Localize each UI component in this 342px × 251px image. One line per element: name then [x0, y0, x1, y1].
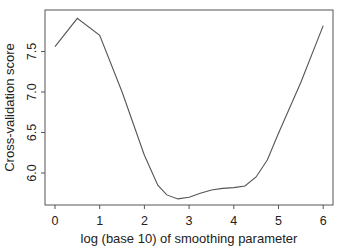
- x-tick-label: 5: [275, 214, 282, 228]
- x-axis: 0123456: [52, 205, 327, 228]
- x-tick-label: 1: [96, 214, 103, 228]
- y-axis-title: Cross-validation score: [2, 43, 17, 172]
- x-axis-title: log (base 10) of smoothing parameter: [81, 231, 298, 246]
- line-chart: 6.06.57.07.5 0123456 log (base 10) of sm…: [0, 0, 342, 251]
- x-tick-label: 6: [320, 214, 327, 228]
- cv-score-line: [55, 18, 323, 199]
- y-tick-label: 7.5: [25, 43, 39, 60]
- y-axis: 6.06.57.07.5: [25, 43, 45, 182]
- x-tick-label: 2: [141, 214, 148, 228]
- x-tick-label: 3: [186, 214, 193, 228]
- y-tick-label: 6.5: [25, 124, 39, 141]
- x-tick-label: 4: [230, 214, 237, 228]
- y-tick-label: 6.0: [25, 164, 39, 181]
- y-tick-label: 7.0: [25, 83, 39, 100]
- x-tick-label: 0: [52, 214, 59, 228]
